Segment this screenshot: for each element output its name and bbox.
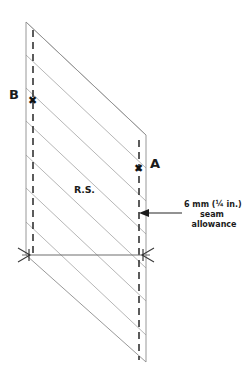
grain-stripe-lines [26,22,146,335]
seam-allowance-callout-leader [139,209,182,217]
outline-bottom-edge [26,255,146,362]
match-point-label-b: B [9,88,19,101]
seam-allowance-word-seam: seam [184,210,246,220]
grain-stripe-line [26,55,146,168]
grain-stripe-line [26,155,146,268]
outline-top-edge [26,22,146,135]
seam-allowance-annotation: 6 mm (¼ in.) seam allowance [184,200,246,230]
grain-stripe-line [26,188,146,301]
illustration-canvas: B ✖ A ✖ R.S. 6 mm (¼ in.) seam allowance [0,0,246,387]
seam-allowance-measure: 6 mm (¼ in.) [184,200,246,210]
reference-line-group [18,248,154,262]
seam-allowance-word-allowance: allowance [184,220,246,230]
match-point-mark-b: ✖ [28,95,37,106]
stitching-lines [33,30,139,360]
grain-stripe-line [26,121,146,234]
pattern-figure [0,0,246,387]
grain-stripe-line [26,222,146,335]
right-side-label: R.S. [74,185,95,195]
arrowhead-icon [139,209,149,217]
match-point-label-a: A [150,157,160,170]
match-point-mark-a: ✖ [134,163,143,174]
